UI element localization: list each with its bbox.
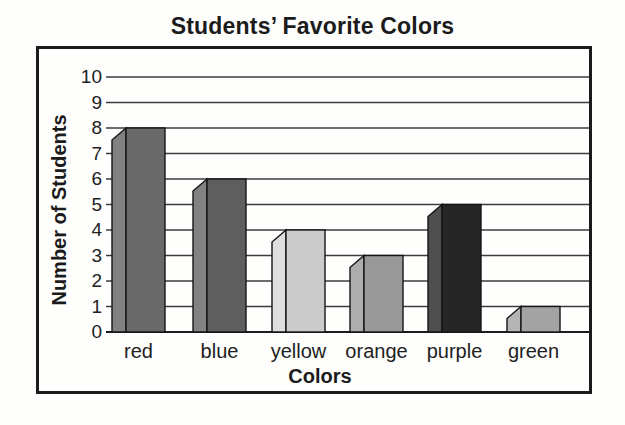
y-axis-title: Number of Students [48,60,72,360]
bar-side-orange [350,256,364,333]
bar-side-purple [428,205,442,333]
bar-yellow [286,230,325,332]
bar-side-blue [193,179,207,332]
bar-green [521,307,560,333]
bar-blue [207,179,246,332]
bar-side-green [507,307,521,333]
bar-side-yellow [272,230,286,332]
chart-frame: 012345678910 redblueyelloworangepurplegr… [36,46,592,394]
x-category-label-blue: blue [175,340,265,363]
worksheet-page: Students’ Favorite Colors 012345678910 r… [0,0,625,425]
bar-purple [442,205,481,333]
x-category-label-yellow: yellow [254,340,344,363]
bar-orange [364,256,403,333]
x-category-label-green: green [489,340,579,363]
chart-title: Students’ Favorite Colors [0,13,625,40]
x-axis-title: Colors [45,365,595,388]
bar-side-red [112,128,126,332]
x-category-label-red: red [94,340,184,363]
x-category-label-orange: orange [332,340,422,363]
x-category-label-purple: purple [410,340,500,363]
bar-red [126,128,165,332]
